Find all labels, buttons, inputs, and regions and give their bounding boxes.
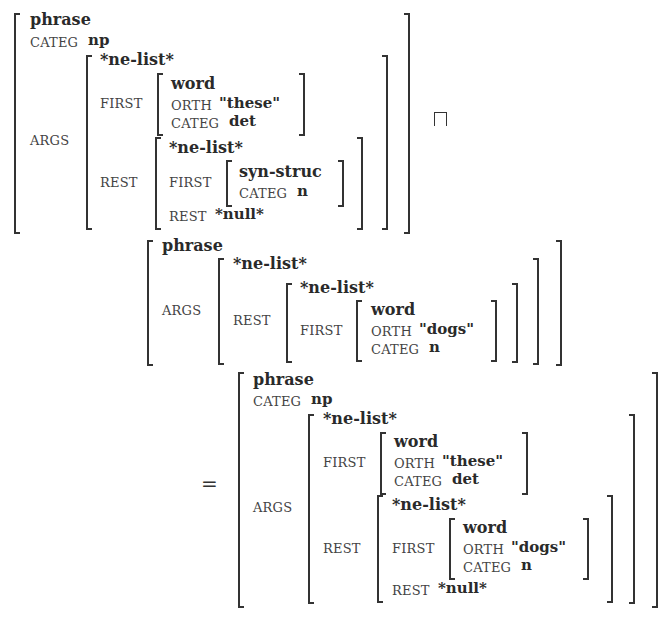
fs2-outer-bracket-right	[556, 240, 562, 366]
fs1-first-bracket-right	[299, 73, 305, 136]
fs2-rest-first-label: FIRST	[300, 324, 343, 337]
fs3-rest-bracket-left	[377, 495, 383, 603]
fs1-args-label: ARGS	[30, 134, 69, 147]
fs1-categ-label: CATEG	[30, 36, 78, 49]
fs2-outer-bracket-left	[147, 240, 153, 366]
fs3-args-bracket-left	[308, 414, 314, 604]
fs3-rest-bracket-right	[607, 495, 613, 603]
fs3-args-type: *ne-list*	[323, 411, 397, 427]
fs1-rest-bracket-left	[155, 137, 161, 230]
fs2-word-categ-label: CATEG	[371, 343, 419, 356]
fs3-first-orth-label: ORTH	[394, 457, 435, 470]
fs1-outer-bracket-left	[14, 13, 20, 234]
fs3-rest-label: REST	[323, 542, 361, 555]
fs1-synstruc-categ-value: n	[297, 184, 308, 199]
fs1-categ-value: np	[88, 33, 109, 48]
fs1-first-orth-label: ORTH	[171, 99, 212, 112]
unify-operator-icon	[434, 112, 447, 126]
fs3-outer-bracket-right	[652, 372, 658, 608]
fs2-word-bracket-right	[491, 300, 497, 362]
fs1-rest-type: *ne-list*	[169, 140, 243, 156]
fs3-first-bracket-right	[522, 432, 528, 495]
fs3-outer-bracket-left	[238, 372, 244, 608]
fs1-rest-label: REST	[100, 176, 138, 189]
fs2-args-type: *ne-list*	[233, 256, 307, 272]
fs3-first-categ-value: det	[452, 472, 479, 487]
fs2-rest-type: *ne-list*	[300, 280, 374, 296]
fs3-first-type: word	[394, 434, 438, 450]
fs3-rest-first-label: FIRST	[392, 542, 435, 555]
fs1-synstruc-type: syn-struc	[239, 164, 322, 180]
fs3-rest-type: *ne-list*	[392, 497, 466, 513]
fs3-dogs-categ-label: CATEG	[463, 561, 511, 574]
fs1-args-type: *ne-list*	[100, 52, 174, 68]
fs3-type: phrase	[253, 372, 314, 388]
fs3-dogs-orth-value: "dogs"	[511, 540, 566, 555]
fs1-first-type: word	[171, 76, 215, 92]
fs1-rest-bracket-right	[357, 137, 363, 230]
fs2-type: phrase	[162, 238, 223, 254]
fs2-args-bracket-left	[218, 258, 224, 365]
fs3-dogs-type: word	[463, 520, 507, 536]
fs1-synstruc-bracket-right	[338, 160, 344, 207]
fs3-args-label: ARGS	[253, 501, 292, 514]
fs2-rest-bracket-left	[286, 283, 292, 363]
fs2-args-label: ARGS	[162, 304, 201, 317]
fs3-first-label: FIRST	[323, 456, 366, 469]
fs1-outer-bracket-right	[404, 13, 410, 234]
fs3-dogs-bracket-left	[449, 518, 455, 580]
fs3-categ-value: np	[311, 392, 332, 407]
fs2-word-categ-value: n	[429, 340, 440, 355]
fs1-rest-first-label: FIRST	[169, 176, 212, 189]
fs1-first-label: FIRST	[100, 97, 143, 110]
fs2-word-bracket-left	[356, 300, 362, 362]
fs3-rest-rest-value: *null*	[438, 581, 487, 596]
fs3-first-orth-value: "these"	[442, 454, 503, 469]
fs2-word-orth-value: "dogs"	[419, 322, 474, 337]
fs3-args-bracket-right	[629, 414, 635, 604]
fs2-rest-bracket-right	[512, 283, 518, 363]
fs3-dogs-categ-value: n	[521, 558, 532, 573]
fs1-first-orth-value: "these"	[219, 96, 280, 111]
fs2-rest-label: REST	[233, 314, 271, 327]
fs1-args-bracket-left	[86, 55, 92, 230]
fs1-first-bracket-left	[157, 73, 163, 136]
fs1-rest-rest-label: REST	[169, 210, 207, 223]
fs3-first-categ-label: CATEG	[394, 475, 442, 488]
fs3-rest-rest-label: REST	[392, 584, 430, 597]
fs1-first-categ-value: det	[229, 114, 256, 129]
fs1-rest-rest-value: *null*	[215, 207, 264, 222]
fs2-word-type: word	[371, 302, 415, 318]
fs1-first-categ-label: CATEG	[171, 117, 219, 130]
fs2-args-bracket-right	[533, 258, 539, 365]
equals-operator: =	[201, 474, 218, 494]
fs3-first-bracket-left	[380, 432, 386, 495]
fs3-dogs-orth-label: ORTH	[463, 543, 504, 556]
fs1-type: phrase	[30, 12, 91, 28]
fs1-synstruc-categ-label: CATEG	[239, 187, 287, 200]
fs2-word-orth-label: ORTH	[371, 325, 412, 338]
fs1-args-bracket-right	[382, 55, 388, 230]
fs3-categ-label: CATEG	[253, 395, 301, 408]
fs1-synstruc-bracket-left	[226, 160, 232, 207]
fs3-dogs-bracket-right	[583, 518, 589, 580]
